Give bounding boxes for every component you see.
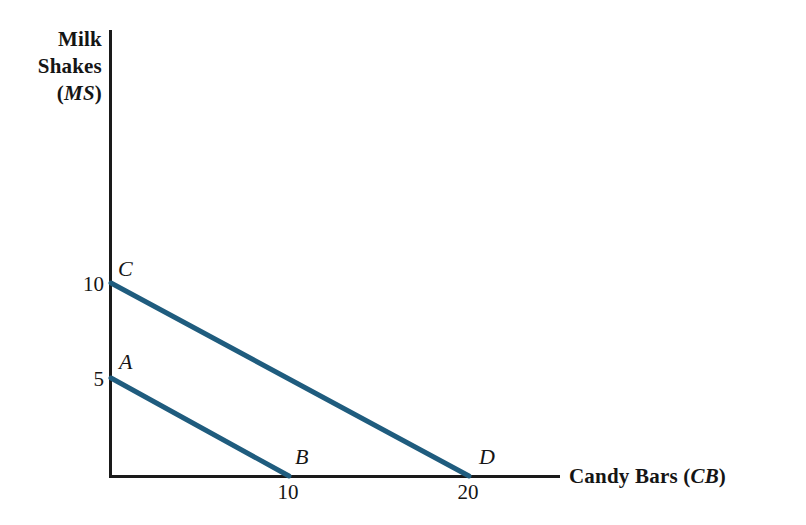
- budget-line-cd: [111, 283, 469, 476]
- x-axis-title: Candy Bars (CB): [569, 464, 726, 489]
- y-tick-label-5: 5: [58, 367, 104, 392]
- y-tick-label-10: 10: [58, 272, 104, 297]
- x-axis-title-symbol: CB: [690, 464, 718, 488]
- point-label-c: C: [118, 256, 133, 282]
- x-tick-label-10: 10: [265, 480, 311, 505]
- point-label-d: D: [479, 444, 495, 470]
- budget-constraint-chart: Milk Shakes (MS) 10 5 10 20 C A B D Cand…: [0, 0, 806, 525]
- x-axis-title-text: Candy Bars: [569, 464, 683, 488]
- x-axis-title-paren-close: ): [719, 464, 726, 488]
- x-tick-label-20: 20: [445, 480, 491, 505]
- point-label-b: B: [295, 444, 308, 470]
- point-label-a: A: [119, 349, 132, 375]
- budget-line-ab: [111, 378, 289, 476]
